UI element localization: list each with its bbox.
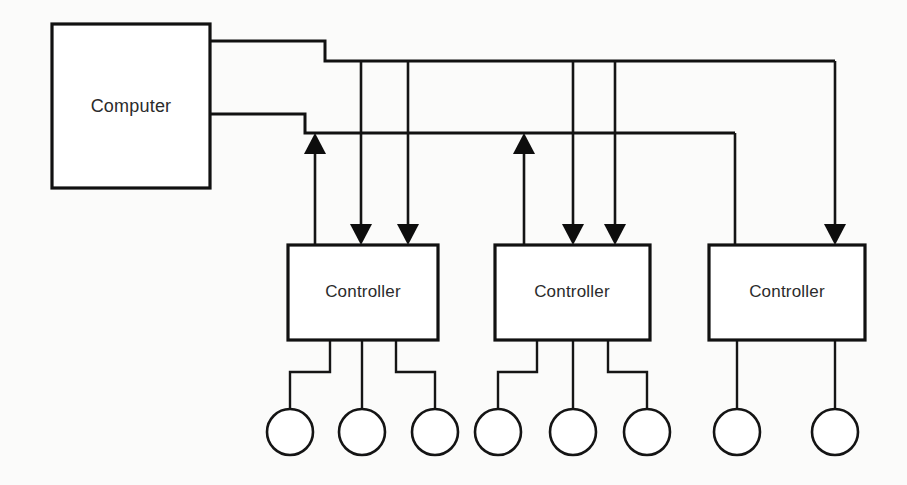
node-controller-2[interactable]: Controller (495, 245, 650, 340)
device-circle-4[interactable] (475, 409, 521, 455)
drop-line-6 (608, 340, 647, 409)
upper-bus (210, 41, 835, 61)
arrowhead-down-ctrl2-b (604, 224, 626, 245)
device-group (267, 409, 858, 455)
arrowhead-down-ctrl3 (824, 224, 846, 245)
device-circle-5[interactable] (550, 409, 596, 455)
arrowhead-group (304, 133, 846, 245)
drop-line-1 (290, 340, 330, 409)
arrowhead-down-ctrl1-b (397, 224, 419, 245)
arrowhead-up-ctrl2 (513, 133, 535, 154)
device-circle-2[interactable] (339, 409, 385, 455)
computer-label: Computer (91, 96, 172, 116)
drop-line-group (290, 340, 835, 409)
controller-3-label: Controller (749, 282, 825, 301)
controller-1-label: Controller (325, 282, 401, 301)
device-circle-1[interactable] (267, 409, 313, 455)
device-circle-3[interactable] (412, 409, 458, 455)
node-computer[interactable]: Computer (52, 24, 210, 188)
device-circle-8[interactable] (812, 409, 858, 455)
bus-group (210, 41, 835, 133)
lower-bus (210, 114, 735, 133)
block-diagram: Computer Controller Controller Controlle… (0, 0, 907, 485)
diagram-canvas: Computer Controller Controller Controlle… (0, 0, 907, 485)
device-circle-7[interactable] (714, 409, 760, 455)
arrowhead-up-ctrl1 (304, 133, 326, 154)
link-group (315, 61, 835, 245)
node-controller-3[interactable]: Controller (709, 245, 865, 340)
controller-2-label: Controller (534, 282, 610, 301)
device-circle-6[interactable] (624, 409, 670, 455)
node-controller-1[interactable]: Controller (288, 245, 438, 340)
arrowhead-down-ctrl1-a (350, 224, 372, 245)
drop-line-4 (498, 340, 537, 409)
drop-line-3 (396, 340, 435, 409)
arrowhead-down-ctrl2-a (562, 224, 584, 245)
